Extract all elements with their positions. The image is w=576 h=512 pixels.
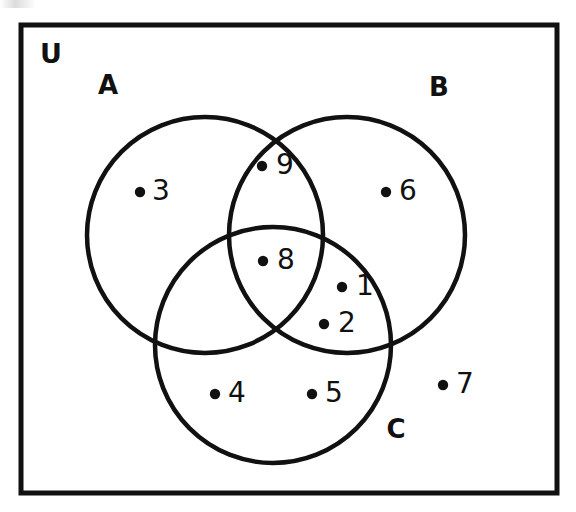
element-marker: 8 (258, 243, 295, 276)
element-marker: 5 (307, 376, 343, 409)
element-label: 3 (152, 174, 170, 207)
element-dot (258, 256, 268, 266)
element-label: 2 (338, 306, 356, 339)
element-label: 5 (325, 376, 343, 409)
element-label: 8 (277, 243, 295, 276)
element-label: 7 (456, 367, 474, 400)
set-label-b: B (429, 72, 449, 102)
element-marker: 4 (210, 376, 246, 409)
set-label-a: A (98, 70, 118, 100)
element-dot (319, 319, 329, 329)
set-label-c: C (386, 414, 405, 444)
element-marker: 6 (381, 174, 417, 207)
element-dot (210, 389, 220, 399)
element-dot (257, 161, 267, 171)
element-dot (135, 187, 145, 197)
element-markers-layer: 396812457 (135, 148, 474, 409)
element-dot (337, 282, 347, 292)
element-marker: 2 (319, 306, 356, 339)
venn-diagram-figure: U A B C 396812457 (0, 0, 576, 512)
element-dot (381, 187, 391, 197)
venn-diagram-canvas: U A B C 396812457 (0, 0, 576, 512)
element-marker: 7 (438, 367, 474, 400)
element-label: 1 (356, 269, 374, 302)
element-label: 6 (399, 174, 417, 207)
universe-label: U (40, 38, 62, 69)
element-dot (438, 380, 448, 390)
set-circle-c (155, 227, 391, 463)
element-dot (307, 389, 317, 399)
element-marker: 3 (135, 174, 170, 207)
element-marker: 1 (337, 269, 374, 302)
element-label: 4 (228, 376, 246, 409)
element-label: 9 (276, 148, 294, 181)
